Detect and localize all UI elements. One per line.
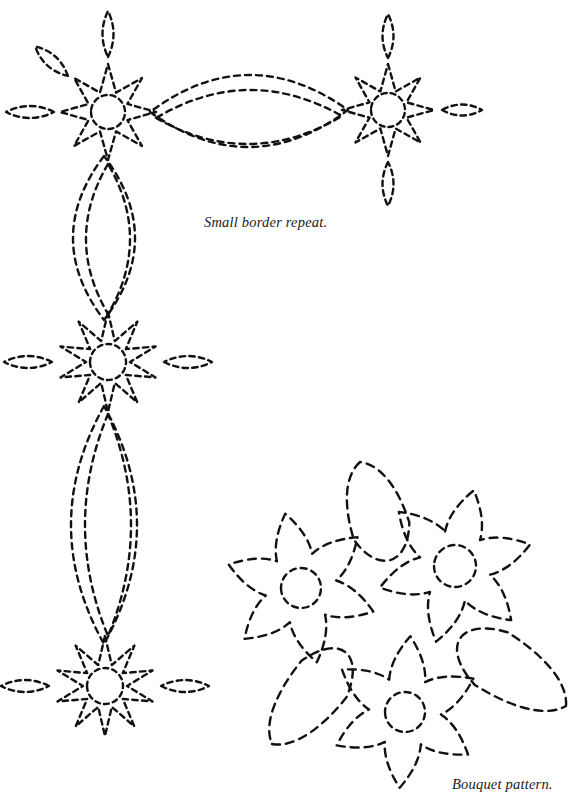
border-flower-bottom-left xyxy=(57,636,152,736)
small-border-repeat-motif xyxy=(1,11,482,736)
border-flower-bottom-left-leaf-1 xyxy=(161,680,209,692)
border-flower-top-right-center xyxy=(371,93,405,127)
bouquet-flower-bottom-center xyxy=(385,692,425,732)
border-lens-horizontal-inner xyxy=(156,90,342,144)
pattern-sheet-page: Small border repeat. Bouquet pattern. xyxy=(0,0,586,806)
bouquet-flower-right-center xyxy=(434,545,476,587)
caption-small-border-repeat: Small border repeat. xyxy=(204,214,327,231)
border-flower-middle-left xyxy=(60,312,155,412)
border-flower-bottom-left-center xyxy=(87,668,123,704)
border-flower-top-left-leaf-0 xyxy=(103,11,114,57)
border-flower-top-left xyxy=(60,64,156,160)
border-lens-horizontal-outer xyxy=(150,75,348,147)
border-lens-vertical-lower-outer xyxy=(71,406,137,644)
border-flower-middle-left-leaf-1 xyxy=(164,356,212,368)
caption-bouquet-pattern: Bouquet pattern. xyxy=(452,776,553,793)
bouquet-flower-left-center xyxy=(281,568,321,608)
border-flower-top-right-leaf-2 xyxy=(442,105,482,116)
bouquet-flower-right xyxy=(380,490,530,641)
bouquet-leaf-right xyxy=(457,628,566,711)
border-flower-top-left-leaf-2 xyxy=(35,46,68,75)
bouquet-flower-bottom xyxy=(337,636,474,788)
border-flower-top-right-leaf-1 xyxy=(383,162,394,206)
border-flower-middle-left-center xyxy=(90,344,126,380)
pattern-drawing xyxy=(0,0,586,806)
border-flower-top-left-center xyxy=(91,95,125,129)
bouquet-pattern-motif xyxy=(229,462,566,788)
border-flower-middle-left-leaf-0 xyxy=(4,356,52,368)
border-flower-top-right xyxy=(342,64,434,156)
border-flower-top-left-leaf-1 xyxy=(6,106,54,118)
border-lens-vertical-upper-outer xyxy=(73,156,135,320)
border-flower-top-right-leaf-0 xyxy=(383,14,394,58)
bouquet-leaf-bottom-left xyxy=(269,648,353,744)
border-flower-bottom-left-leaf-0 xyxy=(1,680,49,692)
